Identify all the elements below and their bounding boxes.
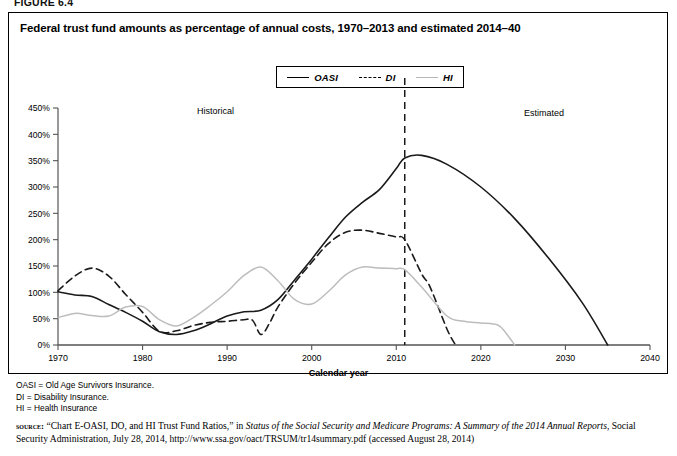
source-citation: source: “Chart E-OASI, DO, and HI Trust …	[16, 420, 666, 445]
annotation-estimated: Estimated	[524, 108, 564, 118]
footnote-oasi: OASI = Old Age Survivors Insurance.	[16, 380, 154, 392]
legend-swatch-di-line	[359, 77, 381, 78]
footnote-di: DI = Disability Insurance.	[16, 392, 154, 404]
legend-label-oasi: OASI	[314, 72, 338, 83]
legend-item-hi: HI	[416, 72, 453, 83]
legend-swatch-oasi-line	[287, 77, 309, 78]
source-part-1: “Chart E-OASI, DO, and HI Trust Fund Rat…	[46, 420, 245, 431]
legend-item-oasi: OASI	[287, 72, 338, 83]
source-kicker: source:	[16, 421, 44, 431]
legend-swatch-hi-line	[416, 77, 438, 78]
footnote-hi: HI = Health Insurance	[16, 403, 154, 415]
x-axis-title: Calendar year	[0, 368, 677, 378]
legend-item-di: DI	[359, 72, 396, 83]
annotation-historical: Historical	[197, 106, 234, 116]
figure-number-label: FIGURE 6.4	[14, 0, 73, 8]
legend-label-hi: HI	[443, 72, 453, 83]
source-italic-title: Status of the Social Security and Medica…	[246, 420, 607, 431]
chart-footnotes: OASI = Old Age Survivors Insurance. DI =…	[16, 380, 154, 415]
chart-legend: OASI DI HI	[276, 66, 464, 88]
legend-label-di: DI	[386, 72, 396, 83]
chart-title: Federal trust fund amounts as percentage…	[20, 22, 640, 34]
